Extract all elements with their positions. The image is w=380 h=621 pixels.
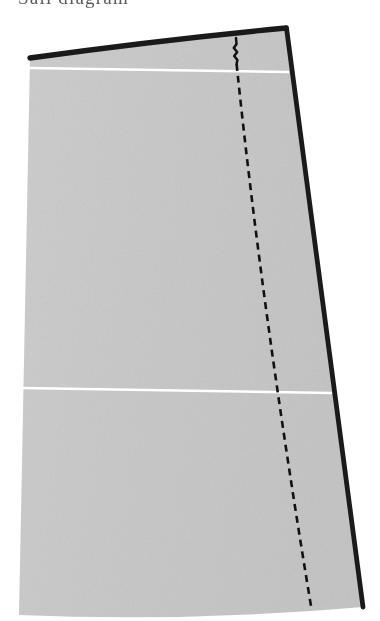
panel-svg [0,0,380,621]
panel-figure [0,0,380,621]
diagram-page: Sail diagram [0,0,380,621]
